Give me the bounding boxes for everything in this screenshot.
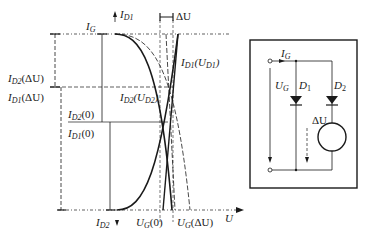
top-terminal [268,59,272,63]
diode-d1-icon [290,96,302,104]
u-axis-arrowhead [236,207,244,213]
id2-ud2-label: ID2(UD2) [119,91,159,105]
id2-axis-arrowhead [115,220,119,226]
graph-labels: ID1 IG ΔU ID1(UD1) ID2(UD2) ID2(ΔU) ID1(… [7,8,234,230]
bottom-terminal [268,168,272,172]
ug-du-label: UG(ΔU) [177,216,213,230]
id2-0-label: ID2(0) [67,108,95,122]
circuit-frame [250,40,357,188]
diagram: ID1 IG ΔU ID1(UD1) ID2(UD2) ID2(ΔU) ID1(… [0,0,365,236]
voltage-source-icon [318,123,346,151]
ig-label: IG [85,20,96,34]
id2-du-label: ID2(ΔU) [7,72,44,86]
circuit-delta-u-label: ΔU [312,114,327,126]
delta-u-top-label: ΔU [176,10,191,22]
id1-axis-label: ID1 [119,8,133,22]
id1-axis-arrowhead [113,11,117,17]
id1-0-label: ID1(0) [67,127,95,141]
circuit-ug-label: UG [275,79,289,93]
circuit-d1-label: D1 [298,79,311,93]
u-axis-label: U [225,212,234,224]
id1-du-label: ID1(ΔU) [7,91,44,105]
circuit-ig-label: IG [280,47,291,61]
circuit-diagram [250,40,357,188]
id2-axis-label: ID2 [95,216,109,230]
circuit-d2-label: D2 [333,79,346,93]
id1-ud1-label: ID1(UD1) [180,56,220,70]
ug-0-label: UG(0) [136,216,163,230]
diode-d2-icon [326,96,338,104]
circuit-labels: IG UG D1 D2 ΔU [275,47,346,126]
